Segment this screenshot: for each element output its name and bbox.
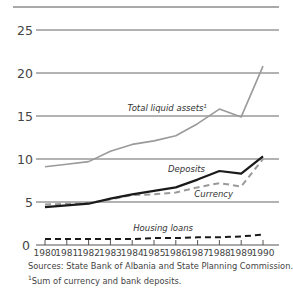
line-chart: 0510152025 19801981198219831984198519861…: [0, 0, 293, 293]
x-tick-label: 1980: [34, 248, 57, 258]
x-tick-label: 1984: [121, 248, 144, 258]
y-tick-label: 20: [17, 66, 33, 81]
sources-note: Sources: State Bank of Albania and State…: [28, 260, 293, 272]
series-line-housing-loans: [45, 235, 263, 239]
series-label-housing-loans: Housing loans: [133, 223, 193, 233]
series-label-currency: Currency: [194, 189, 234, 199]
y-tick-label: 15: [17, 109, 33, 124]
y-tick-label: 5: [25, 195, 33, 210]
x-tick-label: 1983: [99, 248, 122, 258]
footnote: 1Sum of currency and bank deposits.: [28, 272, 293, 287]
series-label-total-liquid-assets: Total liquid assets1: [128, 103, 207, 113]
x-tick-label: 1989: [230, 248, 253, 258]
x-tick-label: 1986: [164, 248, 187, 258]
x-tick-label: 1982: [77, 248, 100, 258]
series-line-deposits: [45, 156, 263, 207]
x-tick-label: 1981: [55, 248, 78, 258]
chart-footer: Sources: State Bank of Albania and State…: [28, 260, 293, 287]
x-tick-label: 1990: [252, 248, 275, 258]
y-tick-label: 10: [17, 152, 33, 167]
footnote-text: Sum of currency and bank deposits.: [32, 276, 182, 286]
x-tick-label: 1987: [186, 248, 209, 258]
x-tick-label: 1985: [143, 248, 166, 258]
footnote-mark: 1: [204, 103, 208, 109]
y-tick-label: 25: [17, 23, 33, 38]
y-tick-label: 0: [22, 238, 30, 253]
x-tick-label: 1988: [208, 248, 231, 258]
series-label-deposits: Deposits: [168, 164, 205, 174]
